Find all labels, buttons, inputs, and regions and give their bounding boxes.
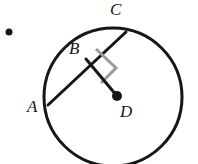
right-angle-marker-icon <box>96 49 116 83</box>
vertex-label-b: B <box>69 40 79 57</box>
geometry-figure: A B C D <box>0 0 198 164</box>
vertex-label-a: A <box>27 98 37 115</box>
vertex-label-d: D <box>120 103 132 120</box>
stray-dot <box>6 29 13 36</box>
vertex-label-c: C <box>110 1 121 18</box>
geometry-canvas <box>0 0 198 164</box>
center-point-d-dot <box>112 91 122 101</box>
